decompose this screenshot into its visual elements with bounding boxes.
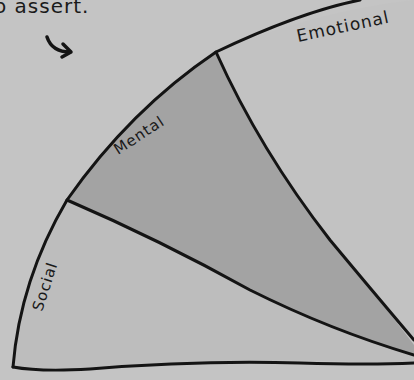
wedge-diagram: Emotional Mental Social xyxy=(0,0,414,380)
curved-arrow-icon xyxy=(47,37,71,57)
